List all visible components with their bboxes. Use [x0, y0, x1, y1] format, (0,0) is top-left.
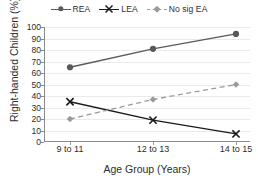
y-ticklabel: 10 — [31, 126, 41, 136]
y-ticklabel: 80 — [31, 45, 41, 55]
legend-swatch-no-sig-ea — [147, 4, 167, 14]
y-tick-mark — [41, 108, 44, 109]
line-chart: REA LEA No sig EA Right-handed Children … — [0, 0, 258, 183]
y-tick-mark — [41, 96, 44, 97]
y-tick-mark — [41, 50, 44, 51]
legend-swatch-lea — [99, 4, 119, 14]
data-point[interactable] — [67, 116, 74, 123]
y-tick-mark — [41, 85, 44, 86]
y-ticklabel: 20 — [31, 114, 41, 124]
y-tick-mark — [41, 27, 44, 28]
data-point[interactable] — [233, 81, 240, 88]
y-axis-ticklabels: 1009080706050403020100 — [14, 27, 41, 142]
y-ticklabel: 100 — [27, 22, 41, 32]
x-tick-mark — [153, 142, 154, 145]
y-tick-mark — [41, 142, 44, 143]
y-ticklabel: 40 — [31, 91, 41, 101]
legend-item-no-sig-ea[interactable]: No sig EA — [147, 4, 208, 14]
data-point[interactable] — [67, 64, 73, 70]
data-point[interactable] — [150, 46, 156, 52]
chart-legend: REA LEA No sig EA — [0, 4, 258, 14]
y-ticklabel: 60 — [31, 68, 41, 78]
y-tick-mark — [41, 73, 44, 74]
legend-label-lea: LEA — [121, 5, 137, 14]
y-ticklabel: 50 — [31, 80, 41, 90]
x-tick-mark — [236, 142, 237, 145]
legend-label-no-sig-ea: No sig EA — [169, 5, 208, 14]
data-point[interactable] — [150, 96, 157, 103]
y-tick-mark — [41, 39, 44, 40]
y-ticklabel: 90 — [31, 34, 41, 44]
y-tick-mark — [41, 131, 44, 132]
x-axis-title: Age Group (Years) — [44, 163, 250, 175]
x-ticklabel: 9 to 11 — [57, 144, 84, 154]
x-tick-mark — [70, 142, 71, 145]
x-marker-icon — [105, 5, 114, 14]
legend-swatch-rea — [51, 4, 71, 14]
legend-item-lea[interactable]: LEA — [99, 4, 137, 14]
diamond-marker-icon — [153, 6, 159, 12]
x-axis-ticklabels: 9 to 1112 to 1314 to 15 — [44, 144, 250, 160]
circle-marker-icon — [58, 6, 63, 11]
plot-area: 1009080706050403020100 9 to 1112 to 1314… — [44, 27, 250, 142]
legend-label-rea: REA — [73, 5, 91, 14]
y-ticklabel: 30 — [31, 103, 41, 113]
series-line-lea — [70, 102, 236, 134]
x-ticklabel: 12 to 13 — [137, 144, 170, 154]
y-ticklabel: 70 — [31, 57, 41, 67]
legend-item-rea[interactable]: REA — [51, 4, 91, 14]
y-tick-mark — [41, 62, 44, 63]
y-tick-mark — [41, 119, 44, 120]
x-ticklabel: 14 to 15 — [220, 144, 253, 154]
series-layer — [44, 27, 250, 142]
data-point[interactable] — [233, 31, 239, 37]
